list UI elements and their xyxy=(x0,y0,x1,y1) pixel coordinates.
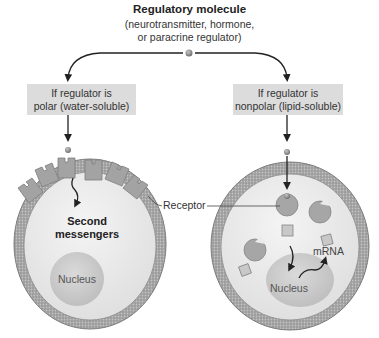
diagram-title: Regulatory molecule xyxy=(0,3,379,15)
nonpolar-nucleus-label: Nucleus xyxy=(270,282,308,294)
regulatory-molecule-icon xyxy=(186,50,193,57)
nonpolar-molecule-icon xyxy=(284,149,290,155)
nonpolar-condition-box: If regulator is nonpolar (lipid-soluble) xyxy=(233,84,343,115)
receptor-label: Receptor xyxy=(163,199,206,211)
polar-condition-line1: If regulator is xyxy=(27,87,136,100)
polar-nucleus-label: Nucleus xyxy=(58,273,96,285)
branch-connectors xyxy=(68,53,287,78)
second-messengers-line1: Second xyxy=(52,215,122,228)
second-messengers-line2: messengers xyxy=(52,228,122,241)
mrna-label: mRNA xyxy=(313,245,344,257)
polar-molecule-icon xyxy=(65,147,71,153)
diagram-subtitle-line2: or paracrine regulator) xyxy=(0,31,379,44)
polar-target-cell xyxy=(14,158,166,329)
second-messengers-label: Second messengers xyxy=(52,215,122,241)
nucleus-icon xyxy=(266,253,334,307)
nonpolar-condition-line1: If regulator is xyxy=(233,87,343,100)
polar-condition-box: If regulator is polar (water-soluble) xyxy=(27,84,136,115)
nonpolar-target-cell xyxy=(211,156,369,330)
polar-condition-line2: polar (water-soluble) xyxy=(27,100,136,113)
diagram-canvas xyxy=(0,0,379,338)
diagram-subtitle-line1: (neurotransmitter, hormone, xyxy=(0,18,379,31)
nonpolar-condition-line2: nonpolar (lipid-soluble) xyxy=(233,100,343,113)
